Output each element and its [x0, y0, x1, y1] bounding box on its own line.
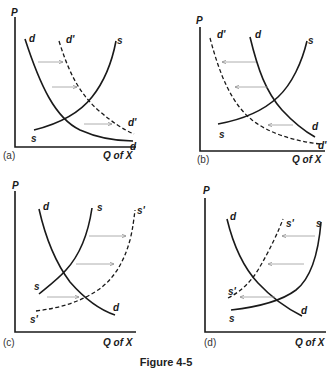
panel-a-y-axis-label: P: [11, 7, 18, 18]
panel-c-supply-shifted-label: s': [137, 205, 146, 216]
panel-b-y-axis-label: P: [196, 15, 203, 26]
panel-c-supply-curve: [39, 208, 92, 294]
panel-b-label: (b): [197, 154, 209, 165]
panel-c-label: (c): [3, 337, 15, 348]
panel-d-demand-curve: [227, 219, 302, 316]
panel-c-demand-curve: [39, 209, 115, 315]
panel-d-demand-label: d: [230, 211, 237, 222]
panel-a-demand-label: d: [29, 33, 36, 44]
panel-c-supply-shifted-curve: [36, 210, 135, 311]
panel-b-demand-label: d: [255, 29, 262, 40]
panel-b-supply-end-label: s: [219, 129, 225, 140]
panel-d-y-axis-label: P: [203, 185, 210, 196]
panel-d-supply-shifted-label: s': [286, 218, 295, 229]
panel-c-x-axis-label: Q of X: [103, 337, 134, 348]
panel-a-demand-end-label: d: [130, 141, 137, 152]
panel-d-supply-end-label: s: [229, 313, 235, 324]
panel-d-supply-shifted-end-label: s': [228, 286, 237, 297]
panel-d-supply-shifted-curve: [228, 219, 283, 298]
panel-b-supply-label: s: [308, 35, 314, 46]
panel-d-x-axis-label: Q of X: [295, 337, 326, 348]
figure-4-5: P (a) Q of X d d' s d' s d P (b) Q of X: [0, 0, 333, 370]
panel-b-x-axis-label: Q of X: [292, 154, 323, 165]
panel-b-demand-end-label: d: [312, 121, 319, 132]
panel-d-demand-end-label: d: [301, 305, 308, 316]
figure-caption: Figure 4-5: [140, 356, 193, 368]
panel-a-supply-end-label: s: [31, 133, 37, 144]
panel-c-supply-shifted-end-label: s': [30, 314, 39, 325]
panel-c-supply-end-label: s: [34, 281, 40, 292]
panel-b-supply-curve: [218, 41, 307, 124]
panel-a-label: (a): [3, 150, 15, 161]
panel-c-demand-label: d: [43, 201, 50, 212]
panel-a-supply-label: s: [117, 35, 123, 46]
panel-a: P (a) Q of X d d' s d' s d: [3, 7, 137, 161]
panel-b-demand-shifted-label: d': [217, 29, 226, 40]
panel-a-supply-curve: [34, 41, 116, 130]
panel-a-demand-shifted-curve: [59, 41, 134, 134]
panel-d: P (d) Q of X d s' s s' d s: [203, 185, 326, 348]
panel-c-y-axis-label: P: [12, 180, 19, 191]
panel-c: P (c) Q of X d s s' s d s': [3, 180, 146, 348]
panel-c-supply-label: s: [97, 202, 103, 213]
panel-b-demand-shifted-end-label: d': [318, 140, 327, 151]
panel-c-demand-end-label: d: [113, 302, 120, 313]
panel-a-demand-curve: [25, 39, 133, 141]
panel-a-demand-shifted-end-label: d': [128, 117, 137, 128]
panel-a-demand-shifted-label: d': [66, 34, 75, 45]
panel-d-supply-label: s: [316, 218, 322, 229]
panel-d-label: (d): [204, 337, 216, 348]
panel-b: P (b) Q of X d' d s d s d': [196, 15, 327, 165]
panel-d-axes: [205, 198, 326, 332]
